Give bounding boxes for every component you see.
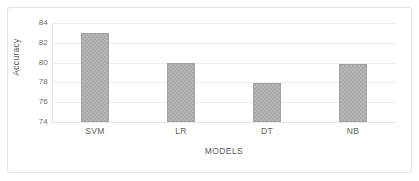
y-axis-tick-labels: 747678808284 <box>14 23 48 122</box>
bar-lr <box>167 63 195 122</box>
bar-chart-figure: Accuracy 747678808284 MODELS SVMLRDTNB <box>0 0 419 181</box>
y-axis-tick-label: 84 <box>18 19 48 27</box>
gridline <box>52 23 396 24</box>
x-axis-category-label-svm: SVM <box>65 127 125 136</box>
x-axis-category-label-lr: LR <box>151 127 211 136</box>
x-axis-category-label-dt: DT <box>237 127 297 136</box>
bar-nb <box>339 64 367 122</box>
y-axis-tick-label: 82 <box>18 39 48 47</box>
plot-area <box>52 23 396 122</box>
bar-dt <box>253 83 281 122</box>
x-axis-category-label-nb: NB <box>323 127 383 136</box>
bar-svm <box>81 33 109 122</box>
y-axis-tick-label: 74 <box>18 118 48 126</box>
y-axis-tick-label: 78 <box>18 78 48 86</box>
x-axis-title: MODELS <box>52 146 396 156</box>
y-axis-tick-label: 76 <box>18 98 48 106</box>
gridline <box>52 122 396 123</box>
y-axis-tick-label: 80 <box>18 59 48 67</box>
